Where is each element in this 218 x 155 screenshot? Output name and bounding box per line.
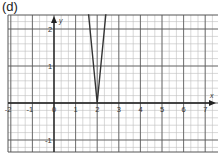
- svg-text:6: 6: [182, 105, 186, 114]
- svg-text:4: 4: [138, 105, 142, 114]
- svg-text:x: x: [209, 92, 214, 99]
- svg-text:-1: -1: [26, 105, 33, 114]
- svg-text:2: 2: [48, 25, 52, 34]
- svg-text:2: 2: [95, 105, 99, 114]
- svg-text:1: 1: [74, 105, 78, 114]
- svg-text:-1: -1: [45, 136, 52, 145]
- svg-text:0: 0: [52, 105, 56, 114]
- svg-text:y: y: [58, 17, 63, 25]
- chart-plot-area: yx-2-10123456721-1: [0, 0, 218, 155]
- svg-text:3: 3: [117, 105, 121, 114]
- svg-text:7: 7: [203, 105, 207, 114]
- svg-text:1: 1: [48, 62, 52, 71]
- svg-text:-2: -2: [5, 105, 12, 114]
- svg-text:5: 5: [160, 105, 164, 114]
- minor-gridlines: [8, 15, 218, 152]
